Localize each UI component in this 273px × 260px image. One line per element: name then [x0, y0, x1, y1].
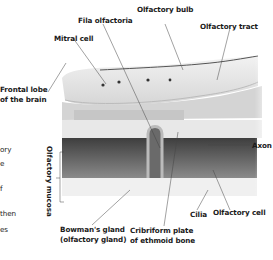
- label-axon: Axon: [252, 141, 272, 150]
- label-olfactory-tract: Olfactory tract: [200, 22, 258, 31]
- label-fila-olfactoria: Fila olfactoria: [78, 16, 133, 25]
- cut-text-5: es: [0, 225, 8, 234]
- label-mitral-cell: Mitral cell: [54, 34, 93, 43]
- cut-text-1: ory: [0, 145, 11, 154]
- label-cribriform-line2: of ethmoid bone: [130, 236, 195, 245]
- label-frontal-lobe-line1: Frontal lobe: [0, 85, 48, 94]
- label-cribriform-line1: Cribriform plate: [130, 226, 193, 235]
- olfactory-diagram: Fila olfactoria Olfactory bulb Olfactory…: [0, 0, 273, 260]
- bowmans-gland-shape: [148, 127, 162, 179]
- label-olfactory-cell: Olfactory cell: [213, 208, 266, 217]
- cut-text-4: then: [0, 209, 16, 218]
- label-olfactory-mucosa: Olfactory mucosa: [45, 146, 54, 217]
- label-bowmans-gland-line1: Bowman's gland: [60, 225, 125, 234]
- label-frontal-lobe-line2: of the brain: [0, 95, 46, 104]
- anatomy-illustration: [0, 0, 273, 260]
- label-bowmans-gland-line2: (olfactory gland): [60, 235, 126, 244]
- label-cilia: Cilia: [190, 210, 207, 219]
- label-olfactory-bulb: Olfactory bulb: [137, 5, 193, 14]
- cut-text-2: e: [0, 159, 4, 168]
- cut-text-3: f: [0, 184, 2, 193]
